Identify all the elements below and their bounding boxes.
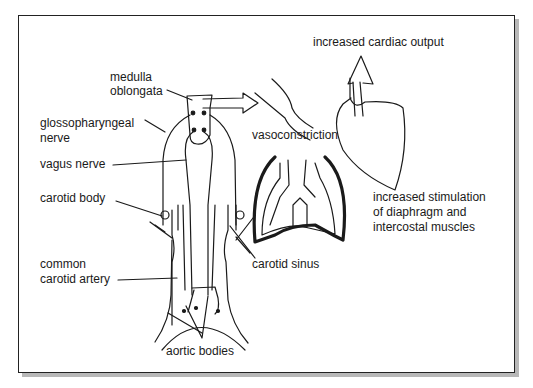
label-cardiac-output: increased cardiac output (313, 35, 444, 50)
heart-icon (337, 56, 405, 190)
label-medulla: medulla (110, 70, 152, 85)
label-common-carotid-2: carotid artery (40, 272, 110, 287)
label-vasoconstriction: vasoconstriction (252, 128, 338, 143)
label-stimulation: increased stimulation (373, 190, 486, 205)
label-vagus-nerve: vagus nerve (40, 157, 105, 172)
label-aortic-bodies: aortic bodies (166, 344, 234, 359)
lungs-icon (254, 157, 344, 242)
label-common-carotid: common (40, 257, 86, 272)
label-stimulation-3: intercostal muscles (373, 220, 475, 235)
label-glossopharyngeal-2: nerve (40, 131, 70, 146)
label-carotid-body: carotid body (40, 191, 105, 206)
label-medulla-2: oblongata (110, 84, 163, 99)
label-glossopharyngeal: glossopharyngeal (40, 116, 134, 131)
label-carotid-sinus: carotid sinus (252, 257, 319, 272)
label-stimulation-2: of diaphragm and (373, 205, 466, 220)
